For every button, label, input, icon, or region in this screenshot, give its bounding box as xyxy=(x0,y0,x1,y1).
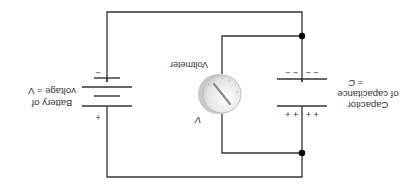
capacitor-label-line1: Capacitor xyxy=(348,100,389,111)
junction-dot-top xyxy=(299,150,305,156)
battery-label-line2: voltage = V xyxy=(27,86,75,97)
capacitor-label-line2: of capacitance xyxy=(337,89,398,100)
voltmeter xyxy=(198,74,241,114)
capacitor-positive-charges: + + + + xyxy=(285,109,319,119)
capacitor-symbol xyxy=(277,79,327,106)
voltmeter-label: Voltmeter xyxy=(170,60,208,70)
battery-symbol xyxy=(82,78,132,106)
capacitor-label-line3: = C xyxy=(348,78,363,89)
battery-plus-sign: + xyxy=(95,112,100,122)
voltmeter-reading-symbol: V xyxy=(193,115,201,126)
junction-dot-bottom xyxy=(299,33,305,39)
capacitor-negative-charges: − − − − xyxy=(285,68,319,78)
battery-minus-sign: − xyxy=(95,68,100,78)
battery-label-line1: Battery of xyxy=(31,98,72,109)
circuit-diagram: Battery of voltage = V − + Voltmeter V C… xyxy=(0,0,414,188)
